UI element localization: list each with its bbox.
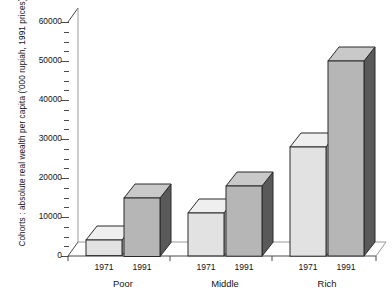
bar-middle-1971 — [188, 199, 224, 256]
y-tick-label: 30000 — [39, 133, 62, 143]
y-tick-label: 10000 — [39, 211, 62, 221]
y-tick-minor — [64, 198, 69, 199]
bar-rich-1991 — [328, 47, 364, 256]
y-tick-minor — [64, 71, 69, 72]
y-tick-major — [61, 22, 69, 23]
group-label-middle: Middle — [185, 278, 265, 289]
y-tick-label: 60000 — [39, 16, 62, 26]
group-label-poor: Poor — [83, 278, 163, 289]
y-tick-minor — [64, 227, 69, 228]
y-tick-label: 50000 — [39, 55, 62, 65]
y-tick-major — [61, 139, 69, 140]
y-tick-minor — [64, 159, 69, 160]
group-label-rich: Rich — [287, 278, 367, 289]
y-tick-minor — [64, 168, 69, 169]
x-tick-label-poor-1971: 1971 — [84, 262, 124, 272]
x-tick-label-middle-1991: 1991 — [224, 262, 264, 272]
plot-area: 0100002000030000400005000060000 19711991… — [0, 0, 392, 301]
y-tick-minor — [64, 90, 69, 91]
y-tick-major — [61, 61, 69, 62]
y-tick-minor — [64, 32, 69, 33]
y-tick-label: 40000 — [39, 94, 62, 104]
x-tick-label-rich-1991: 1991 — [326, 262, 366, 272]
y-tick-minor — [64, 129, 69, 130]
bar-poor-1991 — [124, 184, 160, 257]
y-tick-label: 0 — [57, 250, 62, 260]
y-tick-major — [61, 100, 69, 101]
y-tick-label: 20000 — [39, 172, 62, 182]
y-tick-major — [61, 217, 69, 218]
x-tick-label-rich-1971: 1971 — [288, 262, 328, 272]
bar-middle-1991 — [226, 172, 262, 256]
x-tick-label-middle-1971: 1971 — [186, 262, 226, 272]
y-tick-minor — [64, 237, 69, 238]
y-tick-minor — [64, 110, 69, 111]
x-tick-label-poor-1991: 1991 — [122, 262, 162, 272]
y-tick-major — [61, 256, 69, 257]
y-tick-minor — [64, 120, 69, 121]
y-tick-minor — [64, 207, 69, 208]
bar-rich-1971 — [290, 133, 326, 256]
y-tick-minor — [64, 42, 69, 43]
y-tick-major — [61, 178, 69, 179]
y-tick-minor — [64, 81, 69, 82]
bar-poor-1971 — [86, 226, 122, 256]
chart-container: Cohorts : absolute real wealth per capit… — [0, 0, 392, 301]
y-tick-minor — [64, 188, 69, 189]
y-tick-minor — [64, 246, 69, 247]
y-tick-minor — [64, 51, 69, 52]
y-tick-minor — [64, 149, 69, 150]
